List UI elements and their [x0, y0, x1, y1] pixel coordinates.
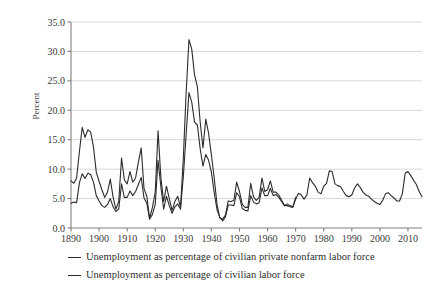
x-tick-label: 1930: [173, 233, 193, 244]
x-tick-label: 1970: [286, 233, 306, 244]
legend-item-civilian-labor-force: Unemployment as percentage of civilian l…: [0, 266, 439, 284]
x-tick-label: 1960: [258, 233, 278, 244]
series-line-1: [71, 40, 296, 220]
y-tick-label: 30.0: [48, 46, 66, 57]
y-tick-label: 10.0: [48, 164, 66, 175]
legend-line-swatch-2: [68, 275, 81, 276]
x-tick-label: 1910: [117, 233, 137, 244]
legend-label-2: Unemployment as percentage of civilian l…: [86, 270, 305, 281]
chart-figure: 0.05.010.015.020.025.030.035.0 189019001…: [0, 0, 439, 287]
y-tick-label: 15.0: [48, 134, 66, 145]
x-tick-labels: 1890190019101920193019401950196019701980…: [61, 233, 418, 244]
unemployment-line-chart: 0.05.010.015.020.025.030.035.0 189019001…: [0, 0, 439, 287]
x-tick-label: 1980: [314, 233, 334, 244]
x-tick-label: 1920: [145, 233, 165, 244]
y-tick-label: 35.0: [48, 17, 66, 28]
legend-line-swatch-1: [68, 257, 81, 258]
y-tick-label: 20.0: [48, 105, 66, 116]
x-tick-label: 1940: [201, 233, 221, 244]
chart-legend: Unemployment as percentage of civilian p…: [0, 248, 439, 284]
x-tick-label: 1950: [229, 233, 249, 244]
y-tick-labels: 0.05.010.015.020.025.030.035.0: [48, 17, 66, 234]
y-axis-title: Percent: [31, 71, 41, 141]
legend-item-private-nonfarm: Unemployment as percentage of civilian p…: [0, 248, 439, 266]
x-tick-label: 2010: [398, 233, 418, 244]
y-tick-label: 0.0: [53, 223, 66, 234]
y-tick-label: 5.0: [53, 193, 66, 204]
y-tick-label: 25.0: [48, 75, 66, 86]
legend-label-1: Unemployment as percentage of civilian p…: [86, 252, 375, 263]
x-tick-label: 2000: [370, 233, 390, 244]
data-series: [71, 40, 422, 221]
x-tick-label: 1890: [61, 233, 81, 244]
x-tick-label: 1900: [89, 233, 109, 244]
series-line-2: [71, 93, 422, 221]
x-tick-label: 1990: [342, 233, 362, 244]
